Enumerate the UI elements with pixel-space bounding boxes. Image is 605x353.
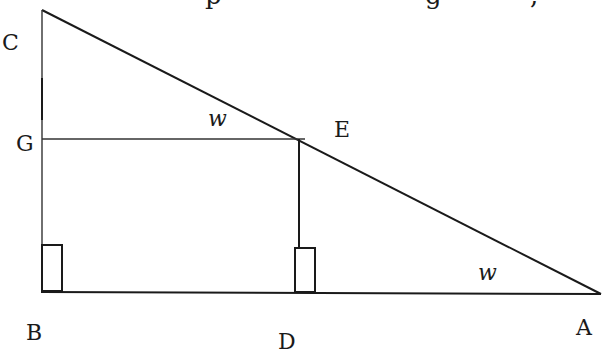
right-angle-marker-b bbox=[42, 245, 62, 291]
label-c: C bbox=[2, 30, 19, 55]
geometry-diagram: p g , C G E B D A w w bbox=[0, 0, 605, 353]
cutoff-heading-text: p bbox=[205, 0, 222, 10]
label-b: B bbox=[26, 320, 42, 345]
label-e: E bbox=[334, 117, 350, 142]
angle-label-w-at-e: w bbox=[208, 106, 227, 131]
angle-label-w-at-a: w bbox=[478, 260, 497, 285]
label-g: G bbox=[16, 131, 34, 156]
segment-ba bbox=[41, 292, 601, 294]
cutoff-heading-text-2: g bbox=[425, 0, 442, 10]
right-angle-marker-d bbox=[295, 248, 315, 292]
label-d: D bbox=[278, 329, 296, 353]
segment-ca bbox=[42, 10, 601, 294]
label-a: A bbox=[575, 315, 593, 340]
cutoff-heading-text-3: , bbox=[530, 0, 538, 10]
